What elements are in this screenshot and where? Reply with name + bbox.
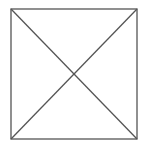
diagram-canvas bbox=[0, 0, 145, 153]
